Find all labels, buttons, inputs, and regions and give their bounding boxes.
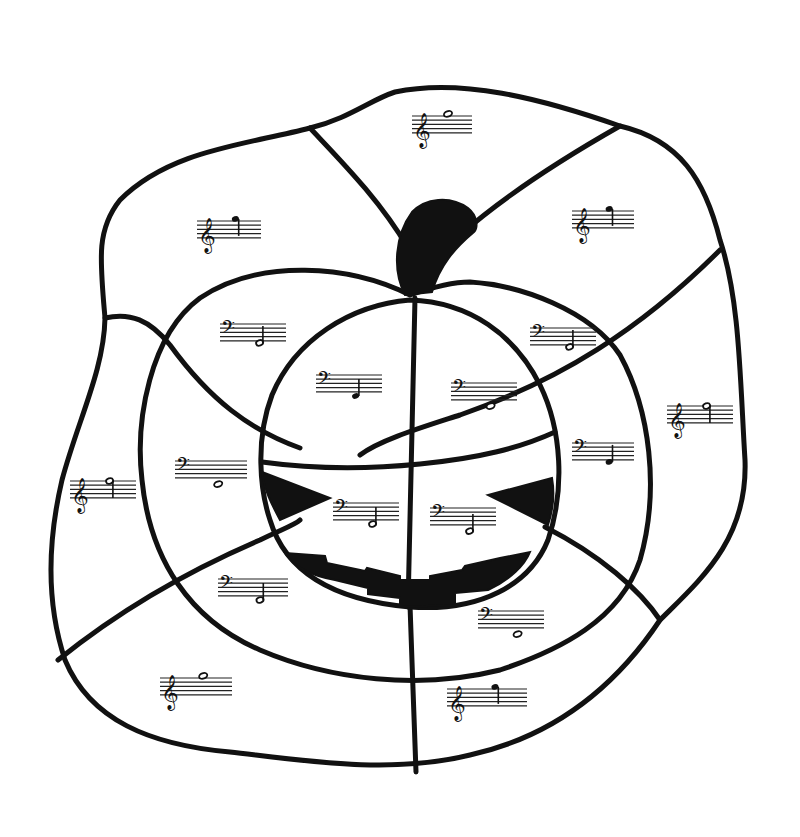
music-staff-middle-left: 𝄢 — [175, 454, 247, 488]
treble-clef-icon: 𝄞 — [448, 685, 466, 722]
music-staff-middle-lower-right: 𝄢 — [478, 604, 544, 638]
bass-clef-icon: 𝄢 — [221, 317, 235, 342]
staves-layer: 𝄞𝄞𝄞𝄢𝄢𝄢𝄢𝄢𝄞𝄢𝄞𝄢𝄢𝄢𝄢𝄞𝄞 — [70, 110, 733, 722]
music-staff-middle-upper-right: 𝄢 — [530, 321, 596, 351]
music-staff-outer-lower-left: 𝄞 — [160, 672, 232, 711]
inner-horizontal-arc — [262, 432, 555, 468]
music-staff-middle-upper-left: 𝄢 — [220, 317, 286, 347]
divider-top-left — [310, 128, 408, 248]
bass-clef-icon: 𝄢 — [573, 436, 587, 461]
divider-bottom — [410, 605, 416, 772]
inner-vertical-divider — [408, 298, 415, 607]
music-staff-outer-right: 𝄞 — [667, 402, 733, 439]
treble-clef-icon: 𝄞 — [198, 217, 216, 254]
bass-clef-icon: 𝄢 — [176, 454, 190, 479]
treble-clef-icon: 𝄞 — [573, 207, 591, 244]
music-staff-outer-upper-right: 𝄞 — [572, 205, 634, 244]
pumpkin-worksheet: 𝄞𝄞𝄞𝄢𝄢𝄢𝄢𝄢𝄞𝄢𝄞𝄢𝄢𝄢𝄢𝄞𝄞 — [0, 0, 800, 837]
music-staff-inner-upper-left: 𝄢 — [316, 368, 382, 400]
whole-note — [443, 110, 453, 118]
divider-top-right — [460, 126, 620, 235]
music-staff-outer-top: 𝄞 — [412, 110, 472, 149]
left-eye — [262, 472, 330, 520]
outer-blob-outline — [51, 87, 745, 765]
music-staff-middle-lower-left: 𝄢 — [218, 572, 288, 604]
music-staff-outer-lower-right: 𝄞 — [447, 683, 527, 722]
music-staff-inner-right-eye: 𝄢 — [430, 501, 496, 535]
treble-clef-icon: 𝄞 — [161, 674, 179, 711]
whole-note — [513, 630, 523, 638]
whole-note — [213, 480, 223, 488]
bass-clef-icon: 𝄢 — [431, 501, 445, 526]
treble-clef-icon: 𝄞 — [668, 402, 686, 439]
treble-clef-icon: 𝄞 — [71, 477, 89, 514]
music-staff-middle-right: 𝄢 — [572, 436, 634, 466]
music-staff-outer-left: 𝄞 — [70, 477, 136, 514]
divider-left-upper — [105, 316, 300, 448]
music-staff-outer-upper-left: 𝄞 — [197, 215, 261, 254]
whole-note — [198, 672, 208, 680]
bass-clef-icon: 𝄢 — [479, 604, 493, 629]
bass-clef-icon: 𝄢 — [219, 572, 233, 597]
treble-clef-icon: 𝄞 — [413, 112, 431, 149]
music-staff-inner-left-eye: 𝄢 — [333, 496, 399, 528]
right-eye — [488, 478, 553, 525]
bass-clef-icon: 𝄢 — [452, 376, 466, 401]
bass-clef-icon: 𝄢 — [317, 368, 331, 393]
bass-clef-icon: 𝄢 — [334, 496, 348, 521]
bass-clef-icon: 𝄢 — [531, 321, 545, 346]
